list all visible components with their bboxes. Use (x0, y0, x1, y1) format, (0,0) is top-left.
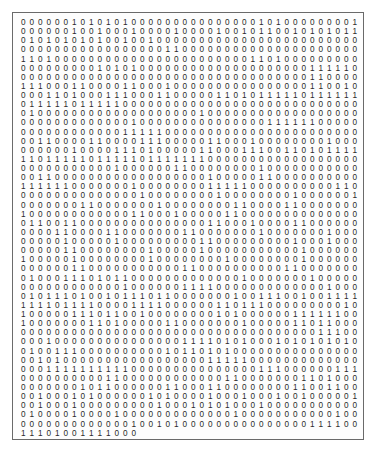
digit: 1 (274, 91, 283, 100)
digit: 0 (138, 383, 147, 392)
digit: 0 (325, 301, 334, 310)
digit: 0 (274, 210, 283, 219)
digit: 0 (45, 73, 54, 82)
digit: 0 (28, 27, 37, 36)
digit: 1 (45, 292, 54, 301)
digit: 0 (257, 36, 266, 45)
digit: 0 (351, 201, 360, 210)
digit: 1 (291, 118, 300, 127)
digit: 0 (79, 356, 88, 365)
digit: 1 (70, 146, 79, 155)
digit: 0 (28, 374, 37, 383)
digit: 0 (164, 420, 173, 429)
digit: 0 (351, 274, 360, 283)
digit: 0 (19, 420, 28, 429)
digit: 0 (232, 191, 241, 200)
digit-row: 1110001100001100010000000000000000110010 (19, 82, 359, 91)
digit: 0 (317, 45, 326, 54)
digit: 0 (104, 164, 113, 173)
digit: 0 (249, 109, 258, 118)
digit: 1 (62, 292, 71, 301)
digit: 1 (121, 155, 130, 164)
digit: 1 (351, 292, 360, 301)
digit: 0 (19, 146, 28, 155)
digit: 0 (130, 347, 139, 356)
digit: 1 (351, 91, 360, 100)
digit: 0 (164, 164, 173, 173)
digit: 0 (138, 237, 147, 246)
digit: 0 (45, 319, 54, 328)
digit: 1 (274, 337, 283, 346)
digit: 0 (215, 210, 224, 219)
digit: 0 (232, 73, 241, 82)
digit: 0 (45, 191, 54, 200)
digit: 0 (283, 27, 292, 36)
digit: 0 (36, 45, 45, 54)
digit: 0 (189, 374, 198, 383)
digit: 0 (155, 18, 164, 27)
digit: 0 (206, 228, 215, 237)
digit: 0 (172, 292, 181, 301)
digit: 0 (138, 45, 147, 54)
digit: 1 (79, 310, 88, 319)
digit: 0 (138, 182, 147, 191)
digit: 0 (198, 118, 207, 127)
digit: 0 (257, 310, 266, 319)
digit: 0 (181, 173, 190, 182)
digit: 0 (130, 410, 139, 419)
digit: 0 (19, 27, 28, 36)
digit: 0 (121, 420, 130, 429)
digit: 0 (189, 201, 198, 210)
digit: 0 (257, 100, 266, 109)
digit: 0 (257, 109, 266, 118)
digit: 1 (121, 18, 130, 27)
digit: 1 (70, 255, 79, 264)
digit: 0 (36, 155, 45, 164)
digit: 0 (96, 347, 105, 356)
digit: 0 (28, 173, 37, 182)
digit: 1 (96, 36, 105, 45)
digit: 0 (351, 109, 360, 118)
digit: 0 (181, 410, 190, 419)
digit: 0 (351, 64, 360, 73)
digit: 0 (206, 420, 215, 429)
digit: 0 (223, 164, 232, 173)
digit: 0 (206, 27, 215, 36)
digit: 0 (351, 255, 360, 264)
digit: 0 (257, 73, 266, 82)
digit: 0 (45, 228, 54, 237)
digit: 0 (198, 201, 207, 210)
digit: 0 (342, 255, 351, 264)
digit: 0 (62, 137, 71, 146)
digit: 0 (79, 210, 88, 219)
digit: 0 (266, 55, 275, 64)
digit: 1 (130, 301, 139, 310)
digit: 0 (130, 310, 139, 319)
digit: 0 (240, 128, 249, 137)
digit: 0 (215, 201, 224, 210)
digit: 1 (257, 365, 266, 374)
digit: 0 (189, 210, 198, 219)
digit: 0 (232, 301, 241, 310)
digit: 1 (206, 237, 215, 246)
digit: 0 (223, 365, 232, 374)
digit: 0 (266, 64, 275, 73)
digit: 1 (291, 337, 300, 346)
digit: 0 (164, 301, 173, 310)
digit: 0 (155, 319, 164, 328)
digit: 0 (215, 237, 224, 246)
digit: 0 (198, 137, 207, 146)
digit: 0 (206, 201, 215, 210)
digit: 0 (164, 55, 173, 64)
digit: 0 (342, 36, 351, 45)
digit: 1 (138, 128, 147, 137)
digit: 0 (96, 410, 105, 419)
digit: 0 (325, 255, 334, 264)
digit: 1 (291, 219, 300, 228)
digit: 0 (181, 201, 190, 210)
digit: 0 (147, 264, 156, 273)
digit: 0 (28, 228, 37, 237)
digit: 0 (240, 73, 249, 82)
digit-row: 0100011101011000000000000010000000100000 (19, 274, 359, 283)
digit: 0 (342, 109, 351, 118)
